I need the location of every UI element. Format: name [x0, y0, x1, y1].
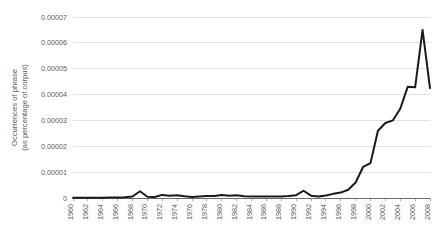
x-axis-tick-label: 2006 — [408, 204, 417, 220]
y-axis-tick-label: 0.00002 — [41, 142, 67, 151]
y-axis-title-line-2: (as percentage of corpus) — [20, 64, 29, 151]
x-axis-tick-label: 1980 — [215, 204, 224, 220]
y-axis-tick-label: 0.00003 — [41, 116, 67, 125]
y-axis-tick-label: 0.00007 — [41, 13, 67, 22]
x-axis-tick-label: 1984 — [245, 204, 254, 220]
x-axis-tick-label: 1982 — [230, 204, 239, 220]
x-axis-tick-label: 1998 — [349, 204, 358, 220]
x-axis-tick-label: 2000 — [364, 204, 373, 220]
x-axis-tick-label: 1988 — [274, 204, 283, 220]
y-axis-tick-label: 0 — [63, 194, 67, 203]
x-axis-tick-label: 1994 — [319, 204, 328, 220]
x-axis-tick-label: 1990 — [289, 204, 298, 220]
x-axis-tick-label: 1966 — [111, 204, 120, 220]
x-axis-tick-label: 2004 — [393, 204, 402, 220]
chart-container: 0.000070.000060.000050.000040.000030.000… — [0, 0, 438, 237]
y-axis-tick-label: 0.00005 — [41, 64, 67, 73]
x-axis-tick-label: 1968 — [126, 204, 135, 220]
x-axis-tick-label: 1996 — [334, 204, 343, 220]
gridlines — [73, 17, 430, 172]
x-axis-tick-label: 2002 — [378, 204, 387, 220]
data-series-line — [73, 30, 430, 198]
x-axis-tick-label: 1992 — [304, 204, 313, 220]
x-axis-tick-label: 1964 — [96, 204, 105, 220]
y-axis-tick-label: 0.00004 — [41, 90, 67, 99]
y-axis-title: Occurrences of phrase (as percentage of … — [10, 64, 29, 151]
y-axis-title-line-1: Occurrences of phrase — [10, 69, 19, 146]
x-axis-tick-label: 1978 — [200, 204, 209, 220]
x-axis-tick-label: 1986 — [259, 204, 268, 220]
y-axis-tick-label: 0.00006 — [41, 38, 67, 47]
x-axis-tick-label: 1962 — [81, 204, 90, 220]
y-axis-tick-label: 0.00001 — [41, 168, 67, 177]
x-axis-tick-label: 2008 — [423, 204, 432, 220]
x-axis-tick-labels: 1960196219641966196819701972197419761978… — [66, 204, 432, 220]
x-axis-tick-label: 1960 — [66, 204, 75, 220]
x-axis-tick-label: 1976 — [185, 204, 194, 220]
x-axis-tick-label: 1974 — [170, 204, 179, 220]
line-chart: 0.000070.000060.000050.000040.000030.000… — [0, 0, 438, 237]
series-line-occurrences — [73, 30, 430, 198]
x-axis-tick-label: 1972 — [155, 204, 164, 220]
y-axis-tick-labels: 0.000070.000060.000050.000040.000030.000… — [41, 13, 67, 203]
x-axis-tick-label: 1970 — [140, 204, 149, 220]
